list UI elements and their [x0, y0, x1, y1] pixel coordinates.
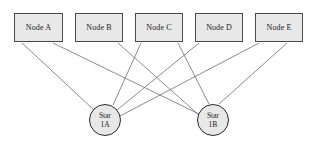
node-a[interactable]: Node A: [14, 13, 63, 42]
node-c[interactable]: Node C: [135, 13, 183, 42]
star-1b[interactable]: Star1B: [197, 104, 229, 136]
star-1b-label-line2: 1B: [209, 120, 218, 129]
star-1a[interactable]: Star1A: [89, 104, 121, 136]
node-c-label: Node C: [146, 23, 171, 32]
network-topology-diagram: Node ANode BNode CNode DNode EStar1AStar…: [0, 0, 319, 150]
node-b-label: Node B: [86, 23, 111, 32]
star-1a-label-line1: Star: [99, 111, 111, 120]
star-1b-label-line1: Star: [207, 111, 219, 120]
star-1a-label-line2: 1A: [100, 120, 109, 129]
node-d-label: Node D: [206, 23, 232, 32]
node-layer: Node ANode BNode CNode DNode EStar1AStar…: [0, 0, 319, 150]
node-d[interactable]: Node D: [195, 13, 243, 42]
node-b[interactable]: Node B: [75, 13, 123, 42]
node-a-label: Node A: [26, 23, 51, 32]
node-e[interactable]: Node E: [255, 13, 303, 42]
node-e-label: Node E: [267, 23, 292, 32]
